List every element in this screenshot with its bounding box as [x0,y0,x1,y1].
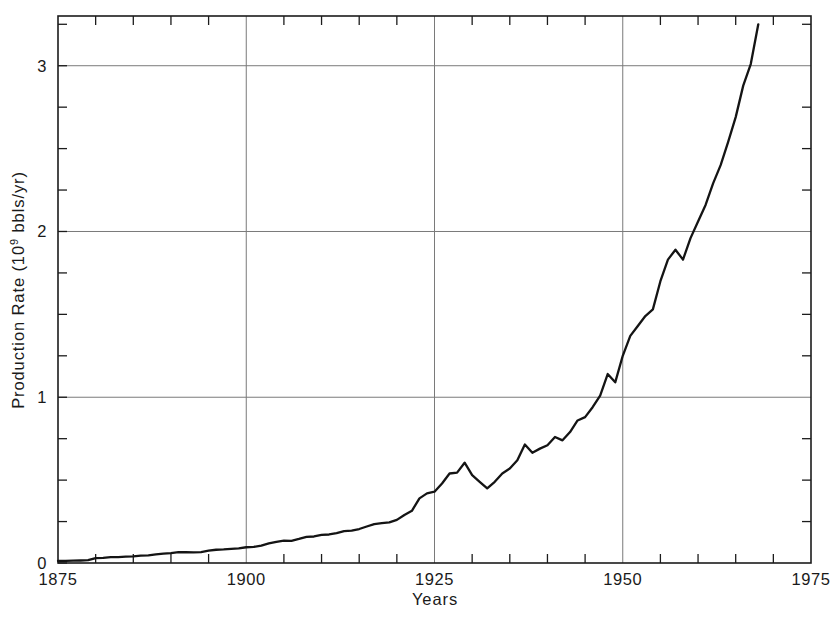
y-axis-tick-labels: 0123 [37,57,47,572]
x-tick-label: 1975 [791,570,830,588]
x-tick-label: 1875 [38,570,77,588]
gridlines-group [58,16,811,563]
y-tick-label: 0 [37,554,47,572]
x-axis-title: Years [412,590,458,608]
x-tick-label: 1925 [415,570,454,588]
y-tick-label: 1 [37,388,47,406]
x-tick-label: 1900 [227,570,266,588]
y-axis-title-prefix: Production Rate (10 [9,245,27,409]
y-axis-title: Production Rate (109 bbls/yr) [8,171,27,409]
x-axis-tick-labels: 18751900192519501975 [38,570,830,588]
x-tick-label: 1950 [603,570,642,588]
y-axis-title-suffix: bbls/yr) [9,171,27,238]
production-rate-line [58,24,758,561]
y-tick-label: 3 [37,57,47,75]
production-rate-line-chart: 18751900192519501975 0123 Years Producti… [0,0,838,630]
chart-figure: 18751900192519501975 0123 Years Producti… [0,0,838,630]
y-axis-title-exponent: 9 [8,238,20,245]
y-tick-label: 2 [37,222,47,240]
